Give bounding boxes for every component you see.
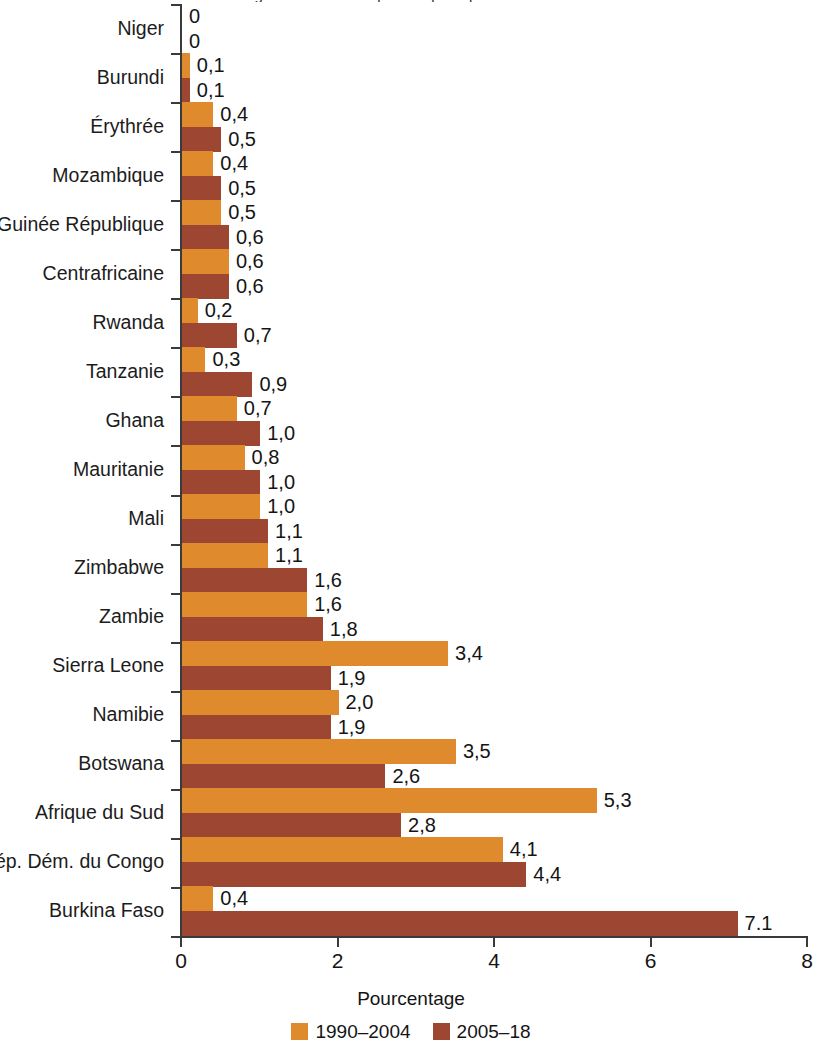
y-axis-tick xyxy=(171,691,182,693)
bar xyxy=(182,519,268,544)
bar xyxy=(182,323,237,348)
category-label: Burundi xyxy=(97,68,164,88)
y-axis-tick xyxy=(171,347,182,349)
bar-value-label: 0,5 xyxy=(221,176,256,201)
bar-chart: Figure : Part des dépenses publiques con… xyxy=(0,0,822,1053)
chart-legend: 1990–20042005–18 xyxy=(0,1022,822,1041)
bar-value-label: 1,9 xyxy=(331,666,366,691)
bar-value-label: 4,1 xyxy=(503,837,538,862)
bar xyxy=(182,396,237,421)
y-axis-tick xyxy=(171,740,182,742)
bar-value-label: 0,6 xyxy=(229,274,264,299)
x-axis-tick-label: 0 xyxy=(175,950,187,971)
bar xyxy=(182,127,221,152)
x-axis-title: Pourcentage xyxy=(0,988,822,1010)
y-axis-tick xyxy=(171,200,182,202)
category-label: Zimbabwe xyxy=(74,558,164,578)
y-axis-tick xyxy=(171,642,182,644)
y-axis-tick xyxy=(171,789,182,791)
bar-value-label: 2,8 xyxy=(401,813,436,838)
bar-value-label: 1,9 xyxy=(331,715,366,740)
bar xyxy=(182,176,221,201)
bar xyxy=(182,445,245,470)
bar-value-label: 0,1 xyxy=(190,78,225,103)
bar xyxy=(182,617,323,642)
y-axis-tick xyxy=(171,4,182,6)
bar-value-label: 3,5 xyxy=(456,739,491,764)
bar xyxy=(182,813,401,838)
bar-value-label: 0,9 xyxy=(252,372,287,397)
bar xyxy=(182,372,252,397)
category-label: Mauritanie xyxy=(73,460,164,480)
bar-value-label: 4,4 xyxy=(526,862,561,887)
category-label: Zambie xyxy=(99,607,164,627)
bar xyxy=(182,200,221,225)
category-label: Botswana xyxy=(78,755,164,775)
bar xyxy=(182,543,268,568)
y-axis-tick xyxy=(171,593,182,595)
category-label: Centrafricaine xyxy=(43,264,164,284)
y-axis-tick xyxy=(171,151,182,153)
y-axis-tick xyxy=(171,445,182,447)
bar xyxy=(182,249,229,274)
category-label: Niger xyxy=(117,19,164,39)
bar xyxy=(182,102,213,127)
bar-value-label: 0,2 xyxy=(198,298,233,323)
bar-value-label: 1,0 xyxy=(260,470,295,495)
bar xyxy=(182,53,190,78)
legend-item: 2005–18 xyxy=(433,1022,531,1041)
bar xyxy=(182,911,738,936)
bar-value-label: 0,5 xyxy=(221,127,256,152)
bar xyxy=(182,470,260,495)
bar-value-label: 0,5 xyxy=(221,200,256,225)
legend-swatch-icon xyxy=(291,1023,308,1040)
x-axis-tick-label: 6 xyxy=(645,950,657,971)
category-label: Mali xyxy=(128,509,164,529)
bar xyxy=(182,225,229,250)
bar xyxy=(182,151,213,176)
bar-value-label: 0,4 xyxy=(213,102,248,127)
category-label: Afrique du Sud xyxy=(35,804,164,824)
category-label: Sierra Leone xyxy=(52,656,164,676)
bar-value-label: 0,6 xyxy=(229,249,264,274)
y-axis-tick xyxy=(171,298,182,300)
bar xyxy=(182,788,597,813)
x-axis-tick xyxy=(806,936,808,947)
bar-value-label: 1,6 xyxy=(307,592,342,617)
bar-value-label: 1,1 xyxy=(268,543,303,568)
category-label: Ghana xyxy=(105,411,164,431)
bar xyxy=(182,274,229,299)
bar-value-label: 0,4 xyxy=(213,886,248,911)
bar-value-label: 1,1 xyxy=(268,519,303,544)
bar-value-label: 7.1 xyxy=(738,911,773,936)
x-axis-tick xyxy=(650,936,652,947)
bar-value-label: 0,7 xyxy=(237,396,272,421)
bar xyxy=(182,421,260,446)
x-axis-tick-label: 8 xyxy=(801,950,813,971)
bar-value-label: 3,4 xyxy=(448,641,483,666)
bar-value-label: 5,3 xyxy=(597,788,632,813)
plot-area: NigerBurundiÉrythréeMozambiqueGuinée Rép… xyxy=(0,0,822,938)
bar xyxy=(182,886,213,911)
bar xyxy=(182,690,339,715)
category-label: Tanzanie xyxy=(86,362,164,382)
legend-item: 1990–2004 xyxy=(291,1022,410,1041)
bar xyxy=(182,666,331,691)
x-axis-tick xyxy=(337,936,339,947)
legend-label: 2005–18 xyxy=(457,1022,531,1041)
bar-value-label: 0,4 xyxy=(213,151,248,176)
bars-container: 000,10,10,40,50,40,50,50,60,60,60,20,70,… xyxy=(182,0,822,938)
category-axis-labels: NigerBurundiÉrythréeMozambiqueGuinée Rép… xyxy=(0,0,172,938)
category-label: Érythrée xyxy=(90,117,164,137)
y-axis-tick xyxy=(171,887,182,889)
bar-value-label: 2,6 xyxy=(385,764,420,789)
bar-value-label: 0,3 xyxy=(205,347,240,372)
bar xyxy=(182,862,526,887)
bar-value-label: 1,8 xyxy=(323,617,358,642)
bar xyxy=(182,739,456,764)
bar xyxy=(182,641,448,666)
bar xyxy=(182,715,331,740)
bar-value-label: 0,8 xyxy=(245,445,280,470)
bar xyxy=(182,494,260,519)
legend-swatch-icon xyxy=(433,1023,450,1040)
